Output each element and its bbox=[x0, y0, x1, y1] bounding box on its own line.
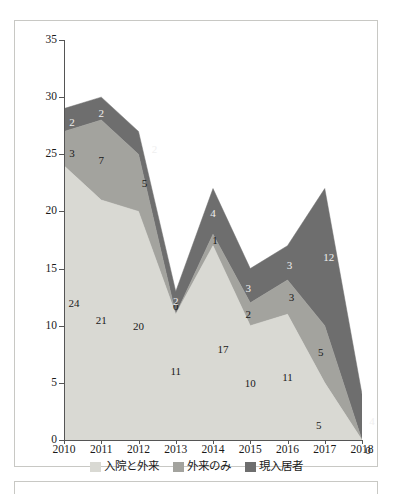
secondary-panel-frame bbox=[14, 481, 378, 494]
y-tick-label: 5 bbox=[17, 377, 57, 389]
y-tick-label: 30 bbox=[17, 91, 57, 103]
y-tick-label: 35 bbox=[17, 34, 57, 46]
y-tick-label: 10 bbox=[17, 320, 57, 332]
legend-label: 現入居者 bbox=[259, 461, 303, 473]
y-tick-mark bbox=[59, 211, 64, 212]
legend-item-3[interactable]: 現入居者 bbox=[245, 461, 303, 473]
y-tick-mark bbox=[59, 40, 64, 41]
y-axis-line bbox=[64, 40, 65, 440]
chart-plot-areas bbox=[64, 40, 362, 440]
y-tick-mark bbox=[59, 97, 64, 98]
legend-item-1[interactable]: 入院と外来 bbox=[90, 461, 159, 473]
y-tick-mark bbox=[59, 269, 64, 270]
legend-label: 入院と外来 bbox=[104, 461, 159, 473]
y-tick-mark bbox=[59, 383, 64, 384]
legend-label: 外来のみ bbox=[187, 461, 231, 473]
y-tick-mark bbox=[59, 326, 64, 327]
y-tick-label: 20 bbox=[17, 205, 57, 217]
legend-swatch-icon bbox=[90, 462, 101, 472]
legend-swatch-icon bbox=[173, 462, 184, 472]
legend-swatch-icon bbox=[245, 462, 256, 472]
page-root: 05101520253035 2010201120122013201420152… bbox=[0, 0, 393, 494]
y-tick-label: 15 bbox=[17, 263, 57, 275]
chart-legend: 入院と外来外来のみ現入居者 bbox=[14, 461, 378, 473]
stacked-area-chart: 05101520253035 2010201120122013201420152… bbox=[14, 20, 378, 467]
y-tick-mark bbox=[59, 154, 64, 155]
y-tick-label: 25 bbox=[17, 148, 57, 160]
legend-item-2[interactable]: 外来のみ bbox=[173, 461, 231, 473]
x-tick-label: 2018 bbox=[339, 444, 385, 456]
data-label: 4 bbox=[369, 416, 375, 427]
